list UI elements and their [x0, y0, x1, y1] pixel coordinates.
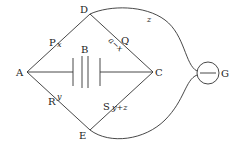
bridge-diagram: D A C E B G P x Q a−x R y S y+z z — [0, 0, 237, 152]
node-label-C: C — [155, 67, 163, 78]
arm-AE — [27, 72, 90, 130]
wire-label-z: z — [146, 15, 152, 24]
galvanometer-icon — [197, 62, 219, 84]
resistor-label-R: R — [48, 96, 56, 107]
resistor-value-S: y+z — [111, 103, 128, 112]
resistor-value-P: x — [57, 40, 62, 49]
node-label-A: A — [15, 67, 24, 78]
resistor-value-R: y — [56, 92, 62, 101]
arm-EC — [90, 72, 153, 130]
node-label-B: B — [81, 44, 88, 55]
battery-icon — [73, 56, 100, 88]
node-label-G: G — [221, 68, 229, 79]
resistor-label-S: S — [103, 101, 110, 112]
node-label-E: E — [79, 130, 86, 141]
resistor-label-P: P — [49, 37, 56, 48]
wire-D-G — [90, 8, 197, 71]
node-label-D: D — [80, 4, 88, 15]
